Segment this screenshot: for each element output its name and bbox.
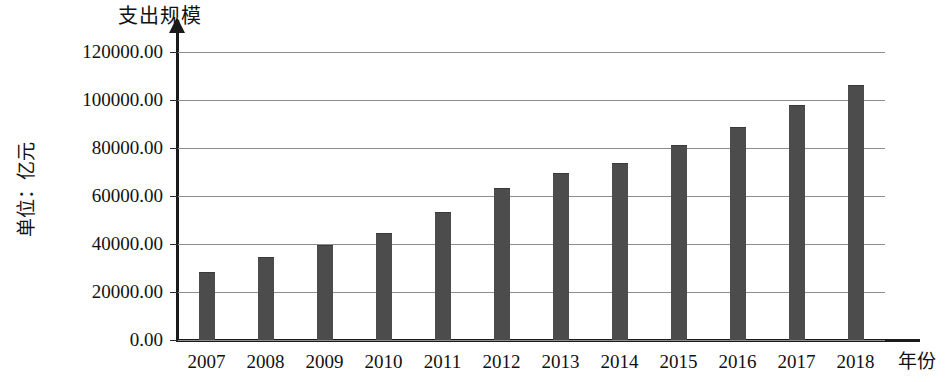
bar-2007: [199, 272, 215, 340]
bar-2017: [789, 105, 805, 340]
bar-2014: [612, 163, 628, 340]
bar-2008: [258, 257, 274, 340]
x-axis-tick-label-2013: 2013: [542, 350, 580, 374]
bar-2011: [435, 212, 451, 340]
bar-2009: [317, 245, 333, 340]
bar-2012: [494, 188, 510, 340]
y-axis-tick-label: 100000.00: [82, 90, 163, 110]
chart-title: 支出规模: [118, 4, 202, 28]
y-axis-tick-label: 120000.00: [82, 42, 163, 62]
plot-area-bars: [177, 52, 885, 340]
y-axis-tick-label: 80000.00: [92, 138, 163, 158]
bar-2016: [730, 127, 746, 340]
y-axis-tick-label: 20000.00: [92, 282, 163, 302]
x-axis-tick-label-2014: 2014: [601, 350, 639, 374]
x-axis-tick-labels: 2007200820092010201120122013201420152016…: [177, 350, 885, 378]
x-axis-tick-label-2017: 2017: [778, 350, 816, 374]
x-axis-tick-label-2008: 2008: [247, 350, 285, 374]
bar-chart: 支出规模 单位：亿元 年份 0.0020000.0040000.0060000.…: [0, 0, 946, 382]
x-axis-tick-label-2007: 2007: [188, 350, 226, 374]
bar-2013: [553, 173, 569, 340]
x-axis-title: 年份: [898, 351, 936, 373]
y-axis-tick-label: 40000.00: [92, 234, 163, 254]
x-axis-tick-label-2010: 2010: [365, 350, 403, 374]
bar-2018: [848, 85, 864, 340]
y-axis-tick-label: 60000.00: [92, 186, 163, 206]
x-axis-tick-label-2015: 2015: [660, 350, 698, 374]
x-axis-tick-label-2012: 2012: [483, 350, 521, 374]
bar-2010: [376, 233, 392, 340]
bar-2015: [671, 145, 687, 340]
y-axis-tick-label: 0.00: [130, 330, 163, 350]
x-axis-tick-label-2009: 2009: [306, 350, 344, 374]
x-axis-tick-label-2011: 2011: [424, 350, 461, 374]
x-axis-tick-label-2018: 2018: [837, 350, 875, 374]
gridline: [177, 340, 885, 341]
x-axis-tick-label-2016: 2016: [719, 350, 757, 374]
y-axis-title: 单位：亿元: [16, 114, 38, 264]
y-axis-tickmark: [170, 340, 178, 341]
